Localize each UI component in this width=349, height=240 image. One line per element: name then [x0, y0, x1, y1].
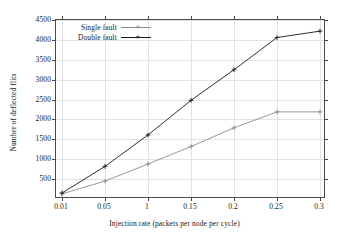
legend-item-double-fault: Double fault + — [78, 33, 151, 43]
chart-figure: Single fault + Double fault + 5001000150… — [0, 0, 349, 240]
data-point-marker — [146, 162, 151, 167]
plot-area: Single fault + Double fault + — [55, 19, 325, 198]
legend-label-single-fault: Single fault — [81, 23, 117, 33]
y-axis-tick-label: 2500 — [36, 94, 51, 103]
x-axis-tick-label: 0.25 — [269, 202, 283, 211]
legend-sample-double-fault: + — [121, 33, 151, 42]
data-point-marker — [275, 109, 280, 114]
data-point-marker — [318, 109, 323, 114]
y-axis-tick-label: 500 — [39, 174, 51, 183]
plus-marker-icon: + — [135, 27, 136, 28]
y-axis-tick-label: 4000 — [36, 34, 51, 43]
x-axis-tick-label: 0.05 — [97, 202, 111, 211]
x-axis-tick-label: 0.15 — [183, 202, 197, 211]
y-axis-tick-label: 1500 — [36, 134, 51, 143]
legend-label-double-fault: Double fault — [78, 33, 117, 43]
y-axis-tick-label: 4500 — [36, 15, 51, 24]
y-axis-tick-label: 1000 — [36, 154, 51, 163]
data-point-marker — [318, 29, 323, 34]
data-point-marker — [232, 125, 237, 130]
y-axis-tick-label: 3500 — [36, 54, 51, 63]
data-point-marker — [189, 144, 194, 149]
x-axis-tick-label: 1 — [145, 202, 149, 211]
x-axis-tick-label: 0.01 — [54, 202, 68, 211]
chart-legend: Single fault + Double fault + — [74, 21, 155, 44]
y-axis-tick-label: 3000 — [36, 74, 51, 83]
plus-marker-icon: + — [135, 36, 136, 37]
data-point-marker — [60, 191, 65, 196]
data-series-layer — [56, 20, 326, 199]
x-axis-tick-label: 0.3 — [314, 202, 324, 211]
series-line-single-fault — [62, 112, 320, 194]
x-axis-tick-label: 0.2 — [228, 202, 238, 211]
x-axis-title: Injection rate (packets per node per cyc… — [0, 219, 349, 228]
y-axis-tick-label: 2000 — [36, 114, 51, 123]
data-point-marker — [103, 179, 108, 184]
y-axis-title: Number of deflected flits — [9, 53, 18, 173]
